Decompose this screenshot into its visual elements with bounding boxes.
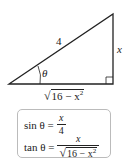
angle-arc — [38, 66, 41, 84]
right-angle-marker — [106, 77, 113, 84]
opposite-side-label: x — [117, 44, 122, 55]
tan-formula: tan θ = x √ 16 − x2 — [24, 134, 99, 159]
triangle — [9, 14, 113, 84]
angle-label: θ — [42, 68, 47, 79]
sin-formula: sin θ = x 4 — [24, 113, 66, 136]
formula-box: sin θ = x 4 tan θ = x √ 16 − x2 — [17, 109, 111, 158]
adjacent-side-label: √ 16 − x2 — [44, 89, 84, 102]
hypotenuse-label: 4 — [56, 36, 62, 47]
